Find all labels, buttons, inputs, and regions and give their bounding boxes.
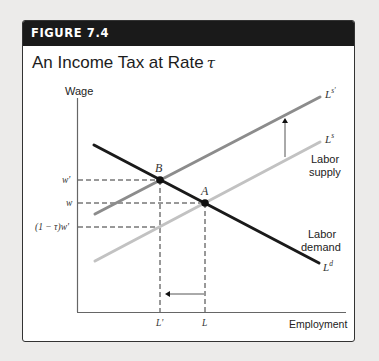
y-axis-label: Wage (65, 85, 93, 97)
curve-label-ls-prime: Ls' (324, 86, 336, 100)
tick-l-prime: L' (155, 318, 164, 328)
labor-demand-text-line2: demand (301, 241, 341, 253)
point-b-label: B (155, 161, 163, 175)
curve-label-ld: Ld (322, 259, 333, 273)
diagram-canvas: Wage Employment B A w' w (1 − τ)w' L' L … (0, 0, 379, 361)
tick-l: L (201, 318, 207, 328)
labor-supply-text-line1: Labor (311, 153, 339, 165)
labor-supply-text-line2: supply (309, 166, 341, 178)
left-arrow-icon (165, 291, 170, 297)
x-axis-label: Employment (289, 318, 347, 330)
up-arrow-icon (282, 118, 288, 123)
point-a-label: A (200, 184, 209, 198)
tick-w: w (66, 198, 73, 208)
curve-label-ls: Ls (324, 131, 334, 145)
equilibrium-point-a (201, 199, 209, 207)
guide-lines (78, 180, 205, 312)
tick-after-tax-wage: (1 − τ)w' (35, 222, 70, 233)
equilibrium-point-b (156, 176, 164, 184)
labor-demand-text-line1: Labor (308, 228, 336, 240)
tick-w-prime: w' (62, 175, 71, 185)
